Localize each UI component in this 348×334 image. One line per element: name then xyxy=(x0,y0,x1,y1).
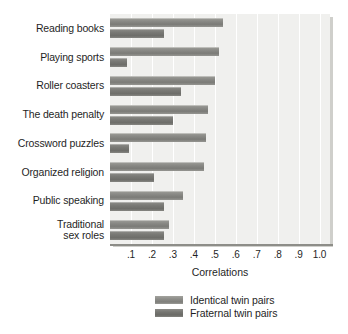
plot-inner xyxy=(110,14,330,244)
bar-fraternal-3 xyxy=(110,116,173,125)
category-label-4: Crossword puzzles xyxy=(0,138,104,149)
x-axis-tick-labels: .1.2.3.4.5.6.7.8.91.0 xyxy=(0,249,348,263)
legend-label-identical: Identical twin pairs xyxy=(190,294,274,306)
bar-identical-4 xyxy=(110,133,206,142)
gridline-.9 xyxy=(299,14,300,244)
bar-identical-2 xyxy=(110,76,215,85)
bar-fraternal-2 xyxy=(110,87,181,96)
x-tick-.2: .2 xyxy=(148,249,156,260)
x-tick-.4: .4 xyxy=(190,249,198,260)
category-label-3: The death penalty xyxy=(0,109,104,120)
bar-identical-6 xyxy=(110,191,183,200)
bar-fraternal-1 xyxy=(110,58,127,67)
chart-legend: Identical twin pairsFraternal twin pairs xyxy=(155,294,345,320)
bar-identical-5 xyxy=(110,162,204,171)
x-tick-.5: .5 xyxy=(211,249,219,260)
category-label-2: Roller coasters xyxy=(0,80,104,91)
category-axis-labels: Reading booksPlaying sportsRoller coaste… xyxy=(0,14,104,244)
bar-identical-3 xyxy=(110,105,208,114)
x-tick-.3: .3 xyxy=(169,249,177,260)
bar-fraternal-7 xyxy=(110,231,164,240)
gridline-1.0 xyxy=(320,14,321,244)
gridline-.7 xyxy=(257,14,258,244)
bar-fraternal-0 xyxy=(110,29,164,38)
plot-area xyxy=(110,14,330,244)
x-tick-.8: .8 xyxy=(274,249,282,260)
x-tick-.9: .9 xyxy=(295,249,303,260)
bar-fraternal-4 xyxy=(110,144,129,153)
x-tick-.7: .7 xyxy=(253,249,261,260)
category-label-6: Public speaking xyxy=(0,195,104,206)
bar-identical-7 xyxy=(110,220,169,229)
x-axis-title: Correlations xyxy=(110,266,330,278)
category-label-7: Traditional sex roles xyxy=(0,219,104,241)
gridline-.6 xyxy=(236,14,237,244)
x-tick-1.0: 1.0 xyxy=(313,249,326,260)
bar-fraternal-5 xyxy=(110,173,154,182)
x-tick-.6: .6 xyxy=(232,249,240,260)
bar-fraternal-6 xyxy=(110,202,164,211)
category-label-1: Playing sports xyxy=(0,52,104,63)
bar-identical-1 xyxy=(110,47,219,56)
x-axis-line xyxy=(110,244,333,246)
legend-item-identical: Identical twin pairs xyxy=(155,294,345,305)
legend-item-fraternal: Fraternal twin pairs xyxy=(155,307,345,318)
category-label-0: Reading books xyxy=(0,23,104,34)
gridline-.8 xyxy=(278,14,279,244)
x-tick-.1: .1 xyxy=(127,249,135,260)
legend-label-fraternal: Fraternal twin pairs xyxy=(190,307,277,319)
bar-identical-0 xyxy=(110,18,223,27)
legend-swatch-identical xyxy=(155,296,183,304)
legend-swatch-fraternal xyxy=(155,309,183,317)
correlations-bar-chart: Reading booksPlaying sportsRoller coaste… xyxy=(0,0,348,334)
category-label-5: Organized religion xyxy=(0,167,104,178)
